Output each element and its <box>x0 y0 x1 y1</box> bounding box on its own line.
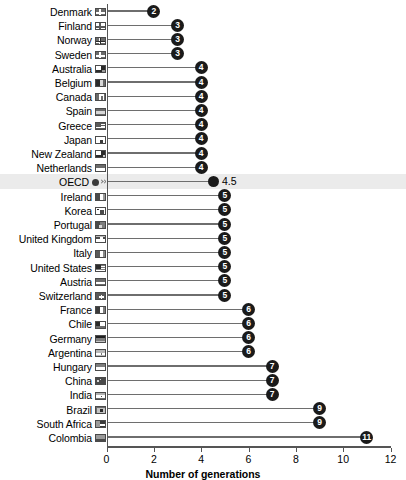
stem-line <box>107 422 320 423</box>
flag-icon <box>95 377 106 385</box>
category-label-oecd: OECD <box>59 174 106 188</box>
flag-icon <box>95 108 106 116</box>
x-axis-tick <box>296 448 297 452</box>
flag-icon <box>95 335 106 343</box>
flag-icon <box>95 434 106 442</box>
category-label-south-africa: South Africa <box>37 416 106 430</box>
stem-line <box>107 337 249 338</box>
chart-row: Spain4 <box>0 103 406 117</box>
stem-line <box>107 323 249 324</box>
category-label-text: France <box>60 304 92 316</box>
data-point-marker: 6 <box>242 345 255 358</box>
category-label-text: Canada <box>56 91 92 103</box>
data-point-marker: 4 <box>195 132 208 145</box>
category-label-france: France <box>60 302 106 316</box>
stem-line <box>107 294 225 295</box>
flag-icon <box>95 349 106 357</box>
chart-row: China7 <box>0 373 406 387</box>
data-point-marker: 5 <box>218 289 231 302</box>
x-axis-tick-label: 12 <box>376 453 406 465</box>
flag-icon <box>95 136 106 144</box>
stem-line <box>107 39 178 40</box>
flag-icon <box>95 207 106 215</box>
chart-row: Brazil9 <box>0 402 406 416</box>
chart-row: Portugal5 <box>0 217 406 231</box>
category-label-switzerland: Switzerland <box>39 288 106 302</box>
data-point-marker <box>208 176 219 187</box>
category-label-netherlands: Netherlands <box>36 160 106 174</box>
stem-line <box>107 25 178 26</box>
x-axis-tick-label: 4 <box>186 453 216 465</box>
category-label-korea: Korea <box>64 203 106 217</box>
data-point-marker: 5 <box>218 189 231 202</box>
stem-line <box>107 380 273 381</box>
stem-line <box>107 280 225 281</box>
category-label-text: Greece <box>58 120 92 132</box>
chart-row: OECD4.5 <box>0 174 406 188</box>
category-label-text: Switzerland <box>39 290 92 302</box>
category-label-norway: Norway <box>57 32 106 46</box>
category-label-text: Japan <box>64 134 92 146</box>
x-axis-tick <box>343 448 344 452</box>
category-label-chile: Chile <box>69 316 106 330</box>
flag-icon <box>95 420 106 428</box>
x-axis-tick <box>391 448 392 452</box>
stem-line <box>107 209 225 210</box>
category-label-greece: Greece <box>58 118 106 132</box>
category-label-ireland: Ireland <box>61 189 106 203</box>
data-point-marker: 5 <box>218 260 231 273</box>
category-label-portugal: Portugal <box>54 217 106 231</box>
data-point-marker: 9 <box>313 402 326 415</box>
data-point-marker: 3 <box>171 19 184 32</box>
data-point-marker: 6 <box>242 317 255 330</box>
data-point-marker: 4 <box>195 118 208 131</box>
category-label-austria: Austria <box>60 274 106 288</box>
category-label-colombia: Colombia <box>48 430 106 444</box>
category-label-canada: Canada <box>56 89 106 103</box>
x-axis-tick-label: 8 <box>281 453 311 465</box>
y-axis-line <box>107 4 108 446</box>
category-label-text: Sweden <box>55 49 92 61</box>
stem-line <box>107 181 214 182</box>
x-axis-tick-label: 6 <box>234 453 264 465</box>
data-point-marker: 9 <box>313 416 326 429</box>
category-label-text: Argentina <box>48 347 92 359</box>
flag-icon <box>95 406 106 414</box>
chart-row: Italy5 <box>0 245 406 259</box>
category-label-germany: Germany <box>50 331 106 345</box>
stem-line <box>107 436 367 437</box>
category-label-text: Portugal <box>54 219 92 231</box>
x-axis-tick <box>249 448 250 452</box>
category-label-text: China <box>65 375 92 387</box>
flag-icon <box>95 235 106 243</box>
x-axis-tick-label: 2 <box>139 453 169 465</box>
chart-row: United Kingdom5 <box>0 231 406 245</box>
category-label-china: China <box>65 373 106 387</box>
x-axis-tick-label: 0 <box>92 453 122 465</box>
chart-row: Sweden3 <box>0 47 406 61</box>
category-label-text: OECD <box>59 177 89 189</box>
category-label-text: Spain <box>66 106 92 118</box>
stem-line <box>107 124 202 125</box>
chart-row: Chile6 <box>0 316 406 330</box>
flag-icon <box>95 292 106 300</box>
stem-line <box>107 408 320 409</box>
x-axis-tick <box>107 448 108 452</box>
chart-row: Belgium4 <box>0 75 406 89</box>
category-label-sweden: Sweden <box>55 47 106 61</box>
stem-line <box>107 110 202 111</box>
data-point-marker: 4 <box>195 147 208 160</box>
data-point-marker: 6 <box>242 331 255 344</box>
category-label-text: Colombia <box>48 432 92 444</box>
flag-icon <box>95 193 106 201</box>
data-point-marker: 5 <box>218 203 231 216</box>
category-label-belgium: Belgium <box>55 75 106 89</box>
category-label-text: Chile <box>69 319 92 331</box>
flag-icon <box>95 37 106 45</box>
category-label-text: Ireland <box>61 191 92 203</box>
flag-icon <box>95 93 106 101</box>
x-axis-title: Number of generations <box>0 468 406 480</box>
data-point-marker: 3 <box>171 33 184 46</box>
data-point-marker: 2 <box>147 5 160 18</box>
